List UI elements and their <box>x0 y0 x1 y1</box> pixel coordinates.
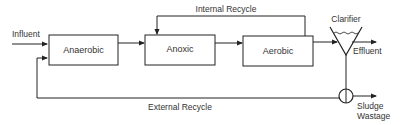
external-recycle-label: External Recycle <box>148 102 212 112</box>
anoxic-tank: Anoxic <box>145 35 215 65</box>
influent-flow: Influent <box>12 29 47 44</box>
aerobic-label: Aerobic <box>263 46 294 56</box>
wastage-label: Wastage <box>357 111 391 121</box>
sludge-wastage-flow: Sludge Wastage <box>353 96 391 121</box>
internal-recycle-flow: Internal Recycle <box>157 4 305 36</box>
process-diagram: Influent Anaerobic Anoxic Aerobic Intern… <box>0 0 400 125</box>
sludge-label: Sludge <box>357 101 384 111</box>
clarifier-label: Clarifier <box>331 14 360 24</box>
anaerobic-label: Anaerobic <box>63 45 104 55</box>
anoxic-label: Anoxic <box>166 44 194 54</box>
internal-recycle-label: Internal Recycle <box>196 4 257 14</box>
influent-label: Influent <box>12 29 41 39</box>
anaerobic-tank: Anaerobic <box>49 35 118 65</box>
aerobic-tank: Aerobic <box>243 36 313 66</box>
effluent-flow: Effluent <box>352 42 382 56</box>
water-surface-icon <box>334 32 358 34</box>
effluent-label: Effluent <box>353 46 382 56</box>
